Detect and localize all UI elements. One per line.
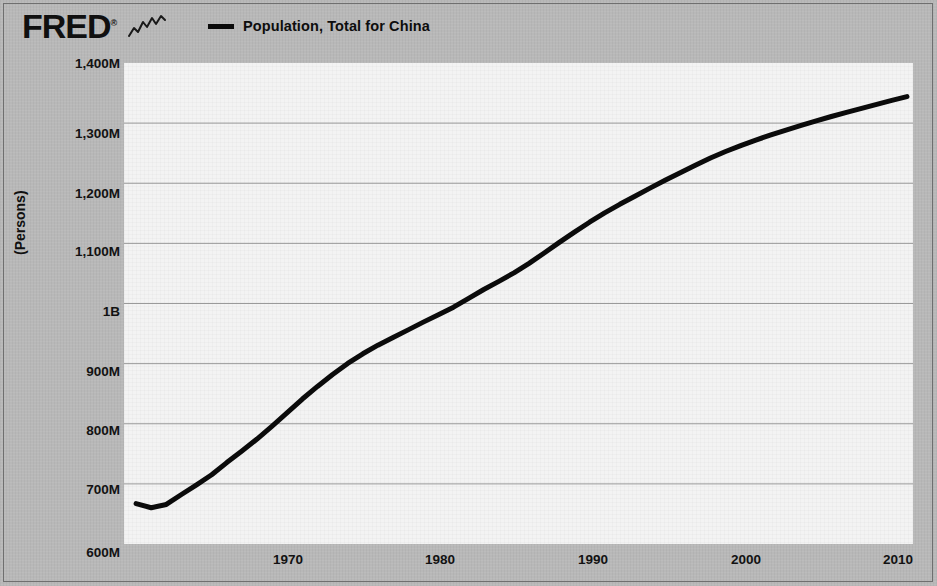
gridlines <box>124 123 913 484</box>
x-tick-label: 1970 <box>273 552 303 567</box>
chart-canvas <box>124 63 913 544</box>
x-tick-label: 2010 <box>883 552 913 567</box>
plot-area <box>124 63 913 544</box>
series-line <box>136 97 907 508</box>
x-tick-label: 2000 <box>731 552 761 567</box>
data-series-lines <box>136 97 907 508</box>
x-tick-label: 1980 <box>425 552 455 567</box>
x-tick-label: 1990 <box>578 552 608 567</box>
